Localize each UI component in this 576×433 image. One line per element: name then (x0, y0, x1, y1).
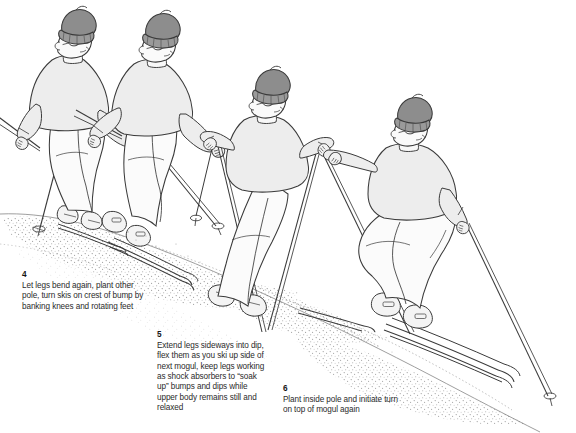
caption-step-5-number: 5 (157, 330, 161, 339)
caption-step-5: 5 Extend legs sideways into dip, flex th… (157, 320, 267, 414)
caption-step-6-text: Plant inside pole and initiate turn on t… (283, 395, 398, 414)
caption-step-4-text: Let legs bend again, plant other pole, t… (22, 281, 143, 311)
illustration-page: 4 Let legs bend again, plant other pole,… (0, 0, 576, 433)
caption-step-5-text: Extend legs sideways into dip, flex them… (157, 341, 264, 412)
caption-step-4-number: 4 (22, 270, 26, 279)
caption-step-6-number: 6 (283, 384, 287, 393)
caption-step-6: 6 Plant inside pole and initiate turn on… (283, 374, 405, 416)
ski-technique-illustration (0, 0, 576, 433)
caption-step-4: 4 Let legs bend again, plant other pole,… (22, 260, 148, 312)
